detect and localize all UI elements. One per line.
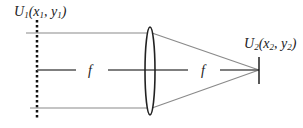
- lens: [145, 27, 155, 115]
- input-field-label: U1(x1, y1): [14, 4, 67, 20]
- output-field-label: U2(x2, y2): [244, 36, 297, 52]
- ray-bottom-converging: [152, 70, 259, 108]
- focal-length-label-right: f: [201, 63, 207, 78]
- lens-fourier-transform-diagram: f f U1(x1, y1) U2(x2, y2): [0, 0, 303, 128]
- focal-length-label-left: f: [88, 63, 94, 78]
- ray-top-converging: [152, 33, 259, 70]
